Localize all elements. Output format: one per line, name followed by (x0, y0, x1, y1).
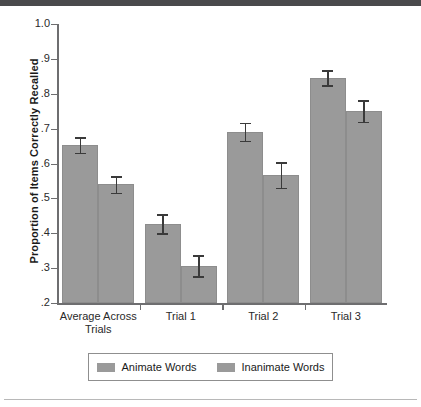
error-bar-cap (157, 214, 168, 216)
error-bar-cap (111, 193, 122, 195)
error-bar (80, 137, 82, 152)
x-axis-tick-label-line: Trial 2 (222, 310, 305, 323)
error-bar-cap (276, 162, 287, 164)
y-axis-tick-label: .3 (20, 261, 50, 273)
bars-layer (57, 24, 387, 303)
x-axis-tick-label-line: Trial 3 (305, 310, 388, 323)
error-bar-cap (358, 100, 369, 102)
bar (62, 145, 98, 303)
error-bar (363, 100, 365, 122)
legend-swatch-icon (217, 363, 235, 372)
error-bar-cap (75, 137, 86, 139)
x-axis-tick-label-line: Trials (57, 323, 140, 336)
plot-area: Proportion of Items Correctly Recalled 1… (0, 0, 421, 407)
error-bar-cap (240, 141, 251, 143)
y-axis-tick-label: .4 (20, 226, 50, 238)
error-bar (162, 214, 164, 233)
error-bar-cap (193, 276, 204, 278)
error-bar (245, 123, 247, 141)
y-axis-tick-label: .5 (20, 191, 50, 203)
bar (346, 111, 382, 303)
error-bar-cap (322, 85, 333, 87)
y-axis-tick-label: .8 (20, 87, 50, 99)
x-axis-tick-label: Average AcrossTrials (57, 310, 140, 336)
y-axis-tick-label: .6 (20, 157, 50, 169)
error-bar-cap (240, 123, 251, 125)
error-bar-cap (193, 255, 204, 257)
error-bar (198, 255, 200, 276)
error-bar-cap (276, 188, 287, 190)
x-axis-tick-label: Trial 1 (140, 310, 223, 323)
y-axis-tick (51, 303, 57, 304)
bar (145, 224, 181, 303)
x-axis-tick-label: Trial 3 (305, 310, 388, 323)
legend-label: Animate Words (122, 361, 197, 373)
y-axis-tick-label: 1.0 (20, 17, 50, 29)
x-axis-tick-label-line: Trial 1 (140, 310, 223, 323)
y-axis-tick-label: .9 (20, 52, 50, 64)
legend-swatch-icon (97, 363, 115, 372)
legend-label: Inanimate Words (242, 361, 325, 373)
error-bar-cap (358, 122, 369, 124)
x-axis-tick-label-line: Average Across (57, 310, 140, 323)
error-bar (116, 176, 118, 193)
chart-legend: Animate Words Inanimate Words (88, 353, 333, 381)
bar (98, 184, 134, 303)
error-bar-cap (322, 70, 333, 72)
legend-item-inanimate-words: Inanimate Words (217, 361, 325, 373)
y-axis-tick-label: .2 (20, 296, 50, 308)
y-axis-tick-label: .7 (20, 122, 50, 134)
figure-container: Proportion of Items Correctly Recalled 1… (0, 0, 421, 407)
error-bar (281, 162, 283, 187)
bar (310, 78, 346, 303)
error-bar-cap (111, 176, 122, 178)
error-bar (327, 70, 329, 85)
error-bar-cap (75, 153, 86, 155)
bar (263, 175, 299, 303)
x-axis-tick-label: Trial 2 (222, 310, 305, 323)
legend-item-animate-words: Animate Words (97, 361, 197, 373)
error-bar-cap (157, 233, 168, 235)
bar (227, 132, 263, 303)
